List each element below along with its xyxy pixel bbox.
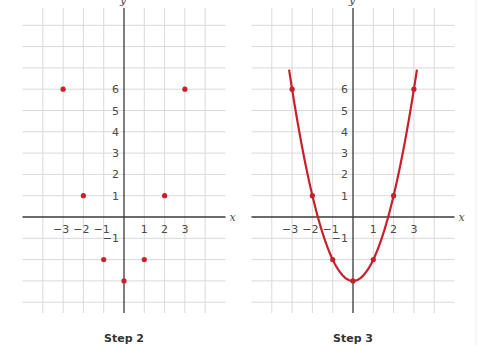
x-tick-label: 1 <box>141 223 148 236</box>
x-tick-label: 3 <box>181 223 188 236</box>
x-tick-label: 3 <box>410 223 417 236</box>
chart-step-2: xy−3−2−1123−1123456 <box>23 0 237 313</box>
y-tick-label: 6 <box>112 83 119 96</box>
y-tick-label: 5 <box>341 105 348 118</box>
figure: xy−3−2−1123−1123456 xy−3−2−1123−1123456 … <box>0 0 479 346</box>
x-tick-label: −2 <box>302 223 318 236</box>
y-tick-label: 4 <box>341 126 348 139</box>
x-axis-label: x <box>230 211 237 224</box>
data-point <box>350 278 355 283</box>
data-point <box>162 193 167 198</box>
y-axis-label: y <box>348 0 356 7</box>
caption-step-3: Step 3 <box>333 332 373 345</box>
y-tick-label: −1 <box>103 232 119 245</box>
x-tick-label: 2 <box>390 223 397 236</box>
y-tick-label: 5 <box>112 105 119 118</box>
y-axis-label: y <box>119 0 127 7</box>
data-point <box>290 87 295 92</box>
data-point <box>61 87 66 92</box>
y-tick-label: 2 <box>112 168 119 181</box>
y-tick-label: 1 <box>112 190 119 203</box>
y-tick-label: −1 <box>332 232 348 245</box>
y-tick-label: 6 <box>341 83 348 96</box>
x-axis-label: x <box>459 211 466 224</box>
data-point <box>81 193 86 198</box>
x-tick-label: −3 <box>53 223 69 236</box>
y-tick-label: 4 <box>112 126 119 139</box>
x-tick-label: −2 <box>73 223 89 236</box>
x-tick-label: 1 <box>370 223 377 236</box>
y-tick-label: 1 <box>341 190 348 203</box>
x-tick-label: 2 <box>161 223 168 236</box>
y-tick-label: 2 <box>341 168 348 181</box>
chart-step-3: xy−3−2−1123−1123456 <box>252 0 466 313</box>
data-point <box>411 87 416 92</box>
data-point <box>310 193 315 198</box>
data-point <box>391 193 396 198</box>
data-point <box>371 257 376 262</box>
data-point <box>142 257 147 262</box>
y-tick-label: 3 <box>112 147 119 160</box>
data-point <box>182 87 187 92</box>
y-tick-label: 3 <box>341 147 348 160</box>
x-tick-label: −3 <box>282 223 298 236</box>
data-point <box>330 257 335 262</box>
caption-step-2: Step 2 <box>104 332 144 345</box>
data-point <box>101 257 106 262</box>
data-point <box>121 278 126 283</box>
